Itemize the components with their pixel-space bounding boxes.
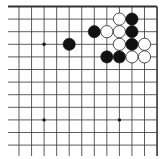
black-stone[interactable]	[126, 38, 138, 50]
star-point	[42, 43, 45, 46]
black-stone[interactable]	[101, 51, 113, 63]
white-stone[interactable]	[113, 38, 125, 50]
star-point	[118, 118, 121, 121]
white-stone[interactable]	[138, 51, 150, 63]
white-stone[interactable]	[113, 26, 125, 38]
white-stone[interactable]	[138, 38, 150, 50]
black-stone[interactable]	[126, 13, 138, 25]
go-board[interactable]	[0, 0, 167, 159]
star-point	[42, 118, 45, 121]
white-stone[interactable]	[126, 51, 138, 63]
white-stone[interactable]	[101, 26, 113, 38]
black-stone[interactable]	[113, 51, 125, 63]
black-stone[interactable]	[88, 26, 100, 38]
black-stone[interactable]	[126, 26, 138, 38]
black-stone[interactable]	[63, 38, 75, 50]
white-stone[interactable]	[113, 13, 125, 25]
